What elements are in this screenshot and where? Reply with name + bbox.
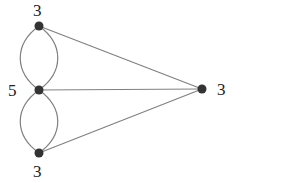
node-middle [35,86,44,95]
edge-middle-bottom-left [20,90,39,153]
degree-label-bottom: 3 [33,163,42,180]
edge-middle-bottom-right [39,90,58,153]
node-right [198,85,207,94]
degree-label-middle: 5 [8,82,17,99]
edge-middle-right [39,89,202,90]
edge-top-right [39,26,202,89]
edge-top-middle-right [39,26,58,90]
graph-diagram: 3 5 3 3 [0,0,308,183]
edge-top-middle-left [20,26,39,90]
node-top [35,22,44,31]
degree-label-right: 3 [217,81,226,98]
edge-bottom-right [39,89,202,153]
degree-label-top: 3 [33,2,42,19]
node-bottom [35,149,44,158]
graph-edges-layer [0,0,308,183]
